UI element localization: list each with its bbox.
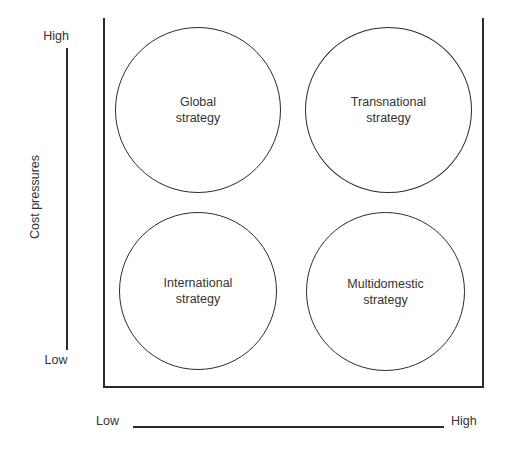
y-axis-line — [66, 48, 68, 350]
bubble-international-strategy: International strategy — [119, 212, 277, 370]
x-axis-low-label: Low — [96, 413, 130, 429]
x-axis-high-label: High — [451, 413, 495, 429]
y-axis-low-label: Low — [20, 352, 92, 368]
bubble-international-strategy-label: International strategy — [164, 275, 233, 307]
x-axis-line — [133, 426, 444, 428]
plot-frame: Global strategy Transnational strategy I… — [103, 18, 484, 388]
strategy-matrix-figure: Cost pressures High Low Global strategy … — [0, 0, 506, 453]
bubble-transnational-strategy: Transnational strategy — [305, 27, 472, 193]
bubble-multidomestic-strategy-label: Multidomestic strategy — [347, 276, 423, 308]
bubble-multidomestic-strategy: Multidomestic strategy — [306, 212, 465, 371]
bubble-global-strategy-label: Global strategy — [176, 94, 220, 126]
y-axis-high-label: High — [20, 28, 92, 44]
bubble-transnational-strategy-label: Transnational strategy — [351, 94, 426, 126]
y-axis-title: Cost pressures — [27, 117, 43, 277]
bubble-global-strategy: Global strategy — [115, 27, 281, 193]
